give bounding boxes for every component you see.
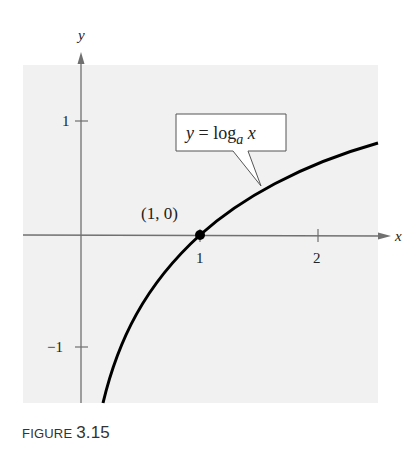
equation-log: = log [194,123,236,143]
caption-prefix: FIGURE [22,426,72,441]
x-tick-label-1: 1 [196,250,204,266]
figure-caption: FIGURE 3.15 [22,423,110,443]
x-tick-label-2: 2 [313,250,321,266]
y-axis-arrow-icon [78,52,85,64]
y-tick-label-1: 1 [62,113,70,129]
point-label: (1, 0) [141,204,178,223]
equation-x: x [243,123,256,143]
equation-base: a [236,132,243,147]
caption-number: 3.15 [76,423,110,442]
x-axis-label: x [394,228,402,244]
equation-y: y [184,123,194,143]
y-tick-label-minus-1: −1 [47,339,63,355]
point-1-0 [195,230,205,240]
x-axis-arrow-icon [378,233,391,240]
y-axis-label: y [76,27,85,43]
log-function-graph: y x 1 −1 1 2 (1, 0) y = loga x [0,0,419,463]
